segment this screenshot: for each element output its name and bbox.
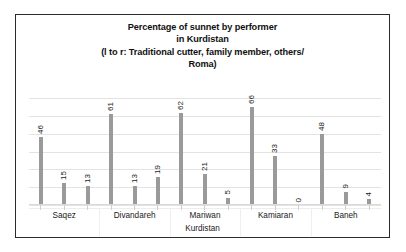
bar-value-label: 66 — [248, 95, 256, 104]
bar-value-label: 19 — [154, 165, 162, 174]
bar[interactable] — [39, 137, 43, 205]
axis-tick — [147, 205, 168, 210]
bar-value-label: 9 — [342, 184, 350, 188]
category-label: Mariwan — [170, 211, 240, 225]
bar-value-label: 21 — [201, 162, 209, 171]
bar-value-label: 48 — [318, 122, 326, 131]
bar[interactable] — [250, 107, 254, 205]
category-label: Saqez — [29, 211, 99, 225]
bar-slot: 13 — [77, 98, 98, 205]
axis-tick — [265, 205, 286, 210]
group-separator — [311, 208, 312, 236]
axis-tick — [288, 205, 309, 210]
plot-area: 46151361131962215663304894 — [29, 98, 381, 205]
bar[interactable] — [344, 192, 348, 205]
bar-slot: 13 — [124, 98, 145, 205]
axis-tick — [171, 205, 192, 210]
axis-tick — [241, 205, 262, 210]
bar-slot: 21 — [194, 98, 215, 205]
bar-value-label: 46 — [37, 125, 45, 134]
bar-value-label: 4 — [365, 192, 373, 196]
category-label: Divandareh — [99, 211, 169, 225]
bar-slot: 4 — [358, 98, 379, 205]
bar[interactable] — [179, 113, 183, 205]
bar-value-label: 0 — [295, 198, 303, 202]
bar-slot: 33 — [265, 98, 286, 205]
chart-title: Percentage of sunnet by performer in Kur… — [16, 21, 389, 70]
axis-tick — [358, 205, 379, 210]
bar-series: 46151361131962215663304894 — [29, 98, 381, 205]
bar[interactable] — [62, 183, 66, 205]
bar-slot: 48 — [311, 98, 332, 205]
axis-tick — [53, 205, 74, 210]
axis-tick — [124, 205, 145, 210]
bar-value-label: 61 — [107, 102, 115, 111]
bar[interactable] — [203, 174, 207, 205]
group-separator — [99, 208, 100, 236]
bar[interactable] — [273, 156, 277, 205]
chart-title-line-2: in Kurdistan — [16, 33, 389, 45]
bar-slot: 19 — [147, 98, 168, 205]
chart-figure: Percentage of sunnet by performer in Kur… — [15, 14, 390, 238]
chart-title-line-1: Percentage of sunnet by performer — [16, 21, 389, 33]
bar[interactable] — [86, 186, 90, 205]
x-axis-title: Kurdistan — [16, 224, 389, 233]
chart-title-line-4: Roma) — [16, 58, 389, 70]
bar-value-label: 15 — [60, 171, 68, 180]
axis-tick — [30, 205, 51, 210]
bar-slot: 0 — [288, 98, 309, 205]
bar-value-label: 62 — [177, 101, 185, 110]
axis-tick — [194, 205, 215, 210]
bar[interactable] — [133, 186, 137, 205]
axis-ticks — [29, 205, 381, 210]
bar-slot: 46 — [30, 98, 51, 205]
bar-value-label: 13 — [84, 174, 92, 183]
bar[interactable] — [109, 114, 113, 205]
axis-tick — [77, 205, 98, 210]
axis-tick — [218, 205, 239, 210]
bar-slot: 62 — [171, 98, 192, 205]
bar-value-label: 5 — [224, 190, 232, 194]
group-separator — [240, 208, 241, 236]
bar-value-label: 33 — [271, 144, 279, 153]
bar-slot: 66 — [241, 98, 262, 205]
bar-slot: 5 — [218, 98, 239, 205]
bar[interactable] — [156, 177, 160, 205]
category-labels: SaqezDivandarehMariwanKamiaranBaneh — [29, 211, 381, 225]
chart-title-line-3: (l to r: Traditional cutter, family memb… — [16, 46, 389, 58]
bar-slot: 61 — [100, 98, 121, 205]
category-label: Kamiaran — [240, 211, 310, 225]
category-label: Baneh — [311, 211, 381, 225]
bar-slot: 9 — [335, 98, 356, 205]
bar-value-label: 13 — [131, 174, 139, 183]
axis-tick — [311, 205, 332, 210]
group-separator — [170, 208, 171, 236]
axis-tick — [100, 205, 121, 210]
bar[interactable] — [320, 134, 324, 205]
bar-slot: 15 — [53, 98, 74, 205]
axis-tick — [335, 205, 356, 210]
